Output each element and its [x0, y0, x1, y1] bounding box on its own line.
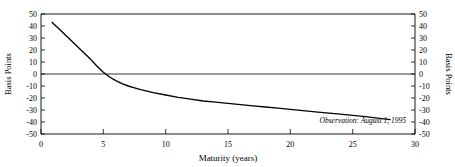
y-tick-label-right: -30 — [419, 106, 430, 115]
y-tick-label-right: 20 — [419, 46, 427, 55]
y-tick-label-right: 40 — [419, 22, 427, 31]
y-tick-label: 50 — [29, 10, 37, 19]
y-tick-label: -10 — [26, 82, 37, 91]
x-axis-ticks — [41, 129, 415, 134]
y-tick-label-right: -40 — [419, 118, 430, 127]
x-tick-label: 5 — [101, 140, 105, 149]
y-axis-left-ticks — [41, 14, 45, 134]
y-tick-label: 10 — [29, 58, 37, 67]
y-axis-title-right: Basis Points — [444, 53, 454, 95]
y-tick-label: -50 — [26, 130, 37, 139]
chart-svg: 50 40 30 20 10 0 -10 -20 -30 -40 -50 50 … — [0, 0, 455, 167]
x-tick-label: 30 — [411, 140, 419, 149]
y-tick-label: 20 — [29, 46, 37, 55]
observation-annotation: Observation: August 1, 1995 — [319, 116, 406, 125]
y-tick-label-right: 10 — [419, 58, 427, 67]
y-axis-title-left: Basis Points — [3, 53, 13, 95]
x-axis-title: Maturity (years) — [199, 153, 258, 163]
y-tick-label-right: 30 — [419, 34, 427, 43]
y-tick-label-right: 0 — [419, 70, 423, 79]
y-tick-label: 30 — [29, 34, 37, 43]
chart-figure: 50 40 30 20 10 0 -10 -20 -30 -40 -50 50 … — [0, 0, 455, 167]
x-tick-label: 15 — [224, 140, 232, 149]
chart-title — [0, 0, 455, 2]
y-tick-label-right: -10 — [419, 82, 430, 91]
x-tick-label: 25 — [349, 140, 357, 149]
y-axis-right-ticks — [411, 14, 415, 134]
y-tick-label: 40 — [29, 22, 37, 31]
y-tick-label: 0 — [33, 70, 37, 79]
data-series-line — [52, 22, 390, 119]
y-tick-label: -20 — [26, 94, 37, 103]
y-tick-label: -30 — [26, 106, 37, 115]
y-tick-label-right: -50 — [419, 130, 430, 139]
y-tick-label-right: 50 — [419, 10, 427, 19]
y-tick-label-right: -20 — [419, 94, 430, 103]
x-axis-labels: 0 5 10 15 20 25 30 — [39, 140, 419, 149]
x-tick-label: 10 — [162, 140, 170, 149]
y-axis-right-labels: 50 40 30 20 10 0 -10 -20 -30 -40 -50 — [419, 10, 430, 139]
x-tick-label: 0 — [39, 140, 43, 149]
x-tick-label: 20 — [286, 140, 294, 149]
y-tick-label: -40 — [26, 118, 37, 127]
y-axis-left-labels: 50 40 30 20 10 0 -10 -20 -30 -40 -50 — [26, 10, 37, 139]
